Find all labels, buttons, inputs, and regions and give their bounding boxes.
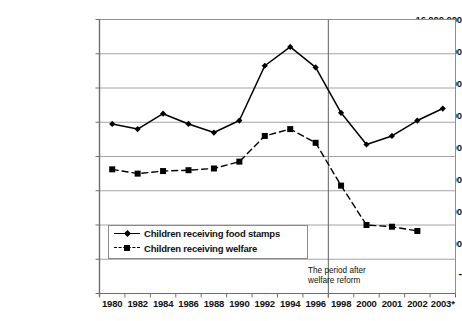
legend-marker-diamond-icon [114, 229, 140, 238]
data-point-welfare [109, 166, 115, 172]
x-axis-tick-label: 2003* [426, 298, 460, 309]
data-point-welfare [262, 133, 268, 139]
data-point-welfare [338, 183, 344, 189]
chart-legend: Children receiving food stamps Children … [108, 225, 308, 259]
data-point-welfare [414, 228, 420, 234]
legend-label: Children receiving food stamps [144, 228, 280, 239]
chart-container: 16,000,000 14,000,000 12,000,000 10,000,… [0, 0, 462, 321]
data-point-welfare [186, 167, 192, 173]
legend-item-food-stamps: Children receiving food stamps [109, 226, 307, 241]
plot-area [0, 0, 462, 321]
legend-label: Children receiving welfare [144, 243, 257, 254]
data-point-welfare [313, 140, 319, 146]
annotation-line-2: welfare reform [308, 276, 366, 286]
data-point-welfare [364, 222, 370, 228]
data-point-welfare [135, 171, 141, 177]
data-point-welfare [160, 168, 166, 174]
annotation-line-1: The period after [308, 266, 366, 276]
legend-marker-square-icon [114, 244, 140, 253]
legend-item-welfare: Children receiving welfare [109, 241, 307, 256]
data-point-welfare [389, 224, 395, 230]
data-point-welfare [236, 159, 242, 165]
annotation-welfare-reform: The period after welfare reform [308, 266, 366, 286]
data-point-welfare [211, 165, 217, 171]
data-point-welfare [287, 126, 293, 132]
